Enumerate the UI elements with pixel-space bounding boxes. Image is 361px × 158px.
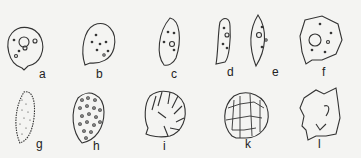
label-k: k [245,138,251,150]
cell-d-drawing [216,19,230,64]
label-a: a [39,68,46,80]
label-d: d [227,66,234,78]
label-f: f [322,66,325,78]
label-i: i [163,140,166,152]
spore-h-drawing [73,93,104,143]
figure: a b c d e f g h i k l [0,0,361,158]
cell-e-drawing [251,15,267,66]
label-h: h [93,140,100,152]
label-b: b [96,68,103,80]
spore-i-drawing [145,91,185,137]
label-g: g [36,138,43,150]
label-c: c [171,68,177,80]
label-l: l [318,138,321,150]
spore-g-drawing [16,92,35,143]
cell-c-drawing [159,18,179,65]
spore-k-drawing [225,93,269,138]
cell-a-drawing [8,27,43,70]
spore-l-drawing [300,88,340,140]
cell-b-drawing [83,24,115,65]
label-e: e [272,66,279,78]
cell-f-drawing [300,16,342,64]
